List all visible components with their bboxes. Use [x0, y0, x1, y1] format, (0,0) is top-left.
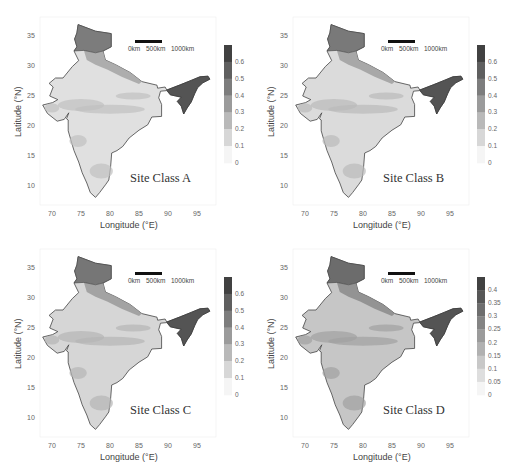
y-tick: 15	[27, 152, 35, 159]
x-tick: 70	[48, 442, 56, 449]
colorbar-tick: 0.05	[488, 378, 501, 385]
scale-bar-label: 0km	[128, 45, 140, 52]
scale-bar-label: 1000km	[171, 277, 194, 284]
x-tick: 75	[77, 210, 85, 217]
colorbar-tick: 0.15	[488, 352, 501, 359]
x-tick: 85	[388, 442, 396, 449]
x-tick: 80	[359, 442, 367, 449]
y-tick: 35	[280, 264, 288, 271]
y-tick: 25	[27, 324, 35, 331]
map-panel-d: 707580859095353025201510Latitude (°N)Lon…	[253, 232, 506, 464]
y-tick: 30	[280, 62, 288, 69]
site-class-label: Site Class D	[383, 403, 445, 418]
y-tick: 35	[280, 32, 288, 39]
scale-bar-label: 500km	[146, 277, 166, 284]
x-tick: 95	[193, 442, 201, 449]
colorbar-tick: 0	[488, 391, 492, 398]
y-tick: 10	[27, 414, 35, 421]
y-tick: 20	[27, 122, 35, 129]
colorbar-tick: 0.2	[235, 125, 244, 132]
colorbar-tick: 0.5	[235, 307, 244, 314]
x-tick: 70	[301, 210, 309, 217]
x-tick: 90	[164, 442, 172, 449]
colorbar-tick: 0.2	[488, 125, 497, 132]
x-tick: 90	[417, 210, 425, 217]
colorbar-tick: 0.3	[235, 340, 244, 347]
x-tick: 70	[48, 210, 56, 217]
colorbar-tick: 0.2	[235, 357, 244, 364]
x-tick: 75	[330, 442, 338, 449]
colorbar-tick: 0.4	[488, 286, 497, 293]
y-tick: 15	[27, 384, 35, 391]
y-tick: 35	[27, 264, 35, 271]
x-axis-label: Longitude (°E)	[353, 220, 411, 230]
map-panel-a: 707580859095353025201510Latitude (°N)Lon…	[0, 0, 253, 232]
x-tick: 75	[77, 442, 85, 449]
scale-bar-label: 1000km	[424, 45, 447, 52]
scale-bar-label: 0km	[381, 45, 393, 52]
x-tick: 85	[135, 442, 143, 449]
colorbar-tick: 0.4	[488, 92, 497, 99]
site-class-label: Site Class B	[383, 171, 444, 186]
x-tick: 75	[330, 210, 338, 217]
y-tick: 35	[27, 32, 35, 39]
y-tick: 20	[280, 354, 288, 361]
colorbar-tick: 0.1	[488, 365, 497, 372]
x-tick: 80	[106, 210, 114, 217]
x-tick: 95	[193, 210, 201, 217]
colorbar-tick: 0.3	[488, 312, 497, 319]
map-panel-b: 707580859095353025201510Latitude (°N)Lon…	[253, 0, 506, 232]
x-tick: 90	[417, 442, 425, 449]
scale-bar-label: 1000km	[171, 45, 194, 52]
y-tick: 25	[280, 92, 288, 99]
colorbar-tick: 0.1	[488, 142, 497, 149]
y-tick: 20	[280, 122, 288, 129]
y-tick: 15	[280, 384, 288, 391]
colorbar-tick: 0	[235, 159, 239, 166]
y-tick: 30	[27, 62, 35, 69]
colorbar-tick: 0.6	[235, 290, 244, 297]
y-axis-label: Latitude (°N)	[266, 86, 276, 137]
colorbar-tick: 0.5	[488, 75, 497, 82]
x-axis-label: Longitude (°E)	[100, 452, 158, 462]
y-tick: 30	[27, 294, 35, 301]
y-tick: 10	[280, 414, 288, 421]
x-tick: 80	[106, 442, 114, 449]
scale-bar-label: 1000km	[424, 277, 447, 284]
scale-bar-label: 500km	[146, 45, 166, 52]
y-tick: 30	[280, 294, 288, 301]
map-panel-c: 707580859095353025201510Latitude (°N)Lon…	[0, 232, 253, 464]
scale-bar-label: 500km	[399, 277, 419, 284]
colorbar-tick: 0.5	[235, 75, 244, 82]
y-tick: 10	[280, 182, 288, 189]
x-axis-label: Longitude (°E)	[353, 452, 411, 462]
site-class-label: Site Class A	[130, 171, 191, 186]
colorbar-tick: 0.4	[235, 92, 244, 99]
x-tick: 95	[446, 442, 454, 449]
y-tick: 10	[27, 182, 35, 189]
y-tick: 20	[27, 354, 35, 361]
scale-bar-label: 500km	[399, 45, 419, 52]
x-tick: 90	[164, 210, 172, 217]
y-tick: 25	[280, 324, 288, 331]
scale-bar-label: 0km	[381, 277, 393, 284]
y-axis-label: Latitude (°N)	[266, 318, 276, 369]
site-class-label: Site Class C	[130, 403, 191, 418]
y-tick: 25	[27, 92, 35, 99]
x-tick: 70	[301, 442, 309, 449]
colorbar-tick: 0.25	[488, 325, 501, 332]
colorbar-tick: 0.6	[488, 58, 497, 65]
y-axis-label: Latitude (°N)	[13, 86, 23, 137]
scale-bar-label: 0km	[128, 277, 140, 284]
colorbar-tick: 0.4	[235, 324, 244, 331]
x-tick: 85	[388, 210, 396, 217]
colorbar-tick: 0.6	[235, 58, 244, 65]
colorbar-tick: 0.3	[488, 108, 497, 115]
colorbar-tick: 0.1	[235, 142, 244, 149]
colorbar-tick: 0.1	[235, 374, 244, 381]
colorbar-tick: 0.3	[235, 108, 244, 115]
colorbar-tick: 0.2	[488, 339, 497, 346]
x-tick: 80	[359, 210, 367, 217]
x-tick: 85	[135, 210, 143, 217]
y-tick: 15	[280, 152, 288, 159]
